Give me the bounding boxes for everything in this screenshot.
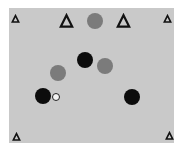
gray-piece-top[interactable]	[87, 13, 103, 29]
triangle-marker-icon	[163, 14, 172, 23]
gray-piece-left[interactable]	[50, 65, 66, 81]
black-piece-center[interactable]	[77, 52, 93, 68]
triangle-marker-icon	[59, 13, 74, 28]
black-piece-right[interactable]	[124, 89, 140, 105]
gray-piece-right[interactable]	[97, 58, 113, 74]
triangle-marker-icon	[12, 132, 21, 141]
triangle-marker-icon	[165, 131, 174, 140]
triangle-marker-icon	[11, 14, 20, 23]
white-ball[interactable]	[52, 93, 60, 101]
triangle-marker-icon	[116, 13, 131, 28]
black-piece-left[interactable]	[35, 88, 51, 104]
